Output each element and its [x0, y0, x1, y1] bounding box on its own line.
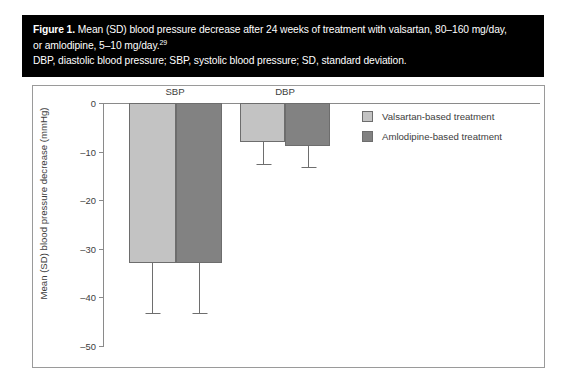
error-bar-stem-sbp-series-1: [199, 263, 200, 313]
error-bar-cap-dbp-series-0: [256, 164, 271, 165]
legend-label-0: Valsartan-based treatment: [382, 111, 494, 122]
y-axis-tick-label: –30: [62, 243, 96, 254]
bar-dbp-series-1: [285, 103, 330, 146]
error-bar-stem-dbp-series-0: [263, 142, 264, 164]
y-axis-tick-mark: [99, 346, 104, 347]
y-axis-title: Mean (SD) blood pressure decrease (mmHg): [38, 104, 49, 304]
legend-label-1: Amlodipine-based treatment: [382, 131, 502, 142]
legend-item-0: Valsartan-based treatment: [362, 106, 502, 126]
error-bar-cap-sbp-series-1: [192, 313, 207, 314]
caption-line-1-text: Mean (SD) blood pressure decrease after …: [75, 24, 507, 35]
group-label-sbp: SBP: [165, 86, 184, 97]
caption-line-1: Figure 1. Mean (SD) blood pressure decre…: [33, 22, 534, 38]
caption-line-3: DBP, diastolic blood pressure; SBP, syst…: [33, 53, 534, 69]
caption-line-2-text: or amlodipine, 5–10 mg/day.: [33, 40, 159, 51]
figure-number-label: Figure 1.: [33, 24, 75, 35]
figure-caption: Figure 1. Mean (SD) blood pressure decre…: [22, 15, 544, 77]
y-axis-tick-label: –20: [62, 195, 96, 206]
error-bar-stem-dbp-series-1: [308, 146, 309, 167]
error-bar-stem-sbp-series-0: [152, 263, 153, 313]
y-axis-tick-label: –40: [62, 292, 96, 303]
y-axis-tick-mark: [99, 103, 104, 104]
bar-sbp-series-0: [129, 103, 176, 263]
bar-sbp-series-1: [176, 103, 223, 263]
error-bar-cap-dbp-series-1: [301, 167, 316, 168]
y-axis-tick-label: –50: [62, 341, 96, 352]
bar-dbp-series-0: [240, 103, 285, 142]
y-axis-tick-label: –10: [62, 146, 96, 157]
y-axis-tick-mark: [99, 297, 104, 298]
figure-container: Figure 1. Mean (SD) blood pressure decre…: [0, 0, 566, 384]
caption-reference-superscript: 29: [159, 38, 167, 45]
error-bar-cap-sbp-series-0: [145, 313, 160, 314]
y-axis-tick-mark: [99, 249, 104, 250]
caption-line-2: or amlodipine, 5–10 mg/day.29: [33, 38, 534, 54]
legend-item-1: Amlodipine-based treatment: [362, 126, 502, 146]
y-axis-tick-mark: [99, 152, 104, 153]
y-axis-line: [103, 103, 104, 346]
y-axis-tick-label: 0: [62, 98, 96, 109]
legend-swatch-icon-0: [362, 111, 373, 122]
y-axis-tick-mark: [99, 200, 104, 201]
legend-swatch-icon-1: [362, 131, 373, 142]
chart-legend: Valsartan-based treatmentAmlodipine-base…: [362, 106, 502, 146]
group-label-dbp: DBP: [275, 86, 295, 97]
